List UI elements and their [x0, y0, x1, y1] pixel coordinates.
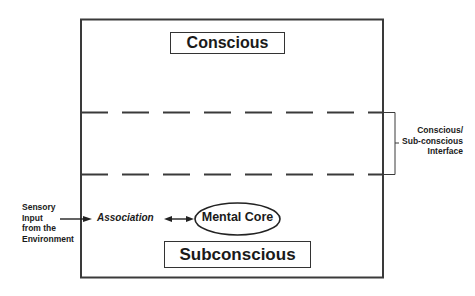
interface-label: Conscious/ Sub-conscious Interface — [395, 125, 463, 157]
outer-boundary — [81, 20, 383, 278]
association-text: Association — [97, 212, 154, 223]
interface-line-1: Conscious/ — [395, 125, 463, 136]
interface-line-2: Sub-conscious — [395, 136, 463, 147]
sensory-input-label: Sensory Input from the Environment — [22, 202, 74, 244]
arrowhead-icon — [83, 216, 92, 222]
interface-bracket — [383, 113, 395, 175]
mental-core-text: Mental Core — [202, 210, 274, 224]
conscious-label: Conscious — [187, 34, 269, 52]
arrowhead-left-icon — [164, 216, 172, 222]
sensory-input-line-3: from the — [22, 223, 74, 234]
conscious-label-box: Conscious — [170, 32, 285, 54]
sensory-input-line-2: Input — [22, 213, 74, 224]
sensory-input-line-1: Sensory — [22, 202, 74, 213]
sensory-input-line-4: Environment — [22, 234, 74, 245]
subconscious-label-box: Subconscious — [164, 241, 311, 268]
subconscious-label: Subconscious — [179, 245, 295, 265]
association-label: Association — [97, 212, 154, 223]
arrowhead-right-icon — [186, 216, 194, 222]
interface-line-3: Interface — [395, 146, 463, 157]
mental-core-label: Mental Core — [195, 210, 280, 224]
